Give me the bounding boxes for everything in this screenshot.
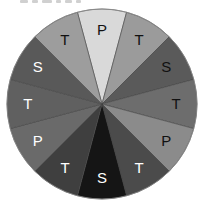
slice-label-12: T xyxy=(60,31,69,48)
slice-label-1: P xyxy=(97,21,107,38)
slice-label-5: P xyxy=(161,132,171,149)
slice-label-6: T xyxy=(135,159,144,176)
slice-label-10: T xyxy=(23,95,32,112)
slice-label-2: T xyxy=(135,31,144,48)
pie-chart: PTSTPTSTPTST xyxy=(0,0,205,206)
slice-label-3: S xyxy=(161,58,171,75)
slice-label-4: T xyxy=(172,95,181,112)
slice-label-11: S xyxy=(33,58,43,75)
slice-label-7: S xyxy=(97,169,107,186)
slice-label-8: T xyxy=(60,159,69,176)
slice-label-9: P xyxy=(33,132,43,149)
